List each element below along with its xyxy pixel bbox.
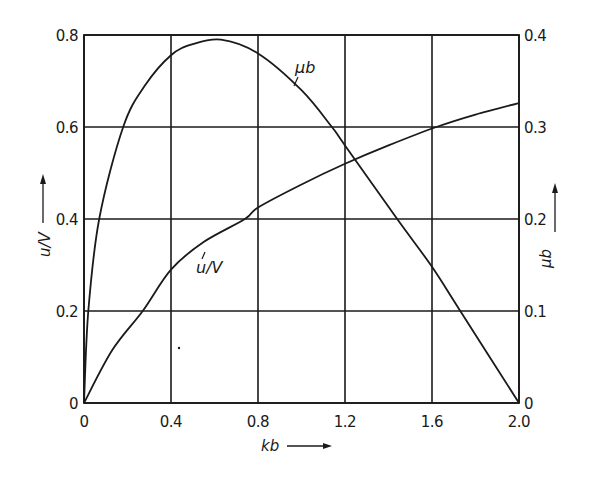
y-right-tick-label: 0.1 [524,303,546,321]
x-tick-label: 1.6 [421,413,443,431]
x-tick-label: 0.8 [247,413,269,431]
data-curves [84,39,519,403]
y-left-tick-label: 0 [69,395,78,413]
y-axis-right-label: μb [537,249,555,269]
curve-label-mu-b: μb [294,58,315,77]
x-tick-label: 0.4 [160,413,182,431]
curve-u-over-v [84,103,519,403]
y-right-tick-label: 0.3 [524,119,546,137]
stray-dot [178,347,180,349]
y-right-tick-label: 0.2 [524,211,546,229]
x-axis-label: kb [261,437,279,455]
y-right-tick-label: 0 [524,395,533,413]
y-left-tick-label: 0.4 [56,211,78,229]
chart-canvas: 00.40.81.21.62.000.20.40.60.800.10.20.30… [0,0,593,477]
y-left-tick-label: 0.8 [56,27,78,45]
curve-mu-b [84,39,519,403]
y-left-tick-label: 0.6 [56,119,78,137]
y-right-tick-label: 0.4 [524,27,546,45]
tick-labels: 00.40.81.21.62.000.20.40.60.800.10.20.30… [56,27,547,431]
y-left-tick-label: 0.2 [56,303,78,321]
y-axis-left-label: u/V [36,230,54,257]
y-axis-right-arrow-icon [552,183,558,232]
curve-label-u-over-v: u/V [196,258,224,277]
x-tick-label: 1.2 [334,413,356,431]
y-axis-left-arrow-icon [40,174,46,223]
x-axis-arrow-icon [287,443,332,449]
x-tick-label: 2.0 [508,413,530,431]
x-tick-label: 0 [79,413,88,431]
